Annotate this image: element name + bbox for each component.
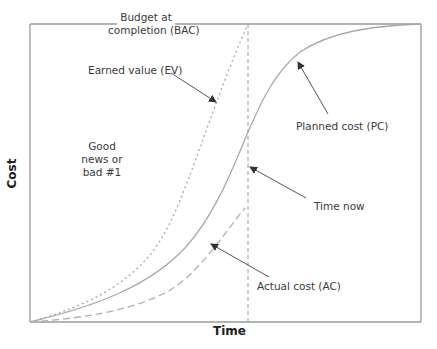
ac-label: Actual cost (AC) [257, 280, 341, 293]
pc-label: Planned cost (PC) [296, 120, 388, 133]
y-axis-label: Cost [6, 159, 19, 189]
pc-arrow-icon [298, 62, 328, 114]
time-now-arrow-icon [250, 167, 306, 198]
good-news-label: Good news or bad #1 [80, 140, 124, 179]
time-now-label: Time now [314, 200, 365, 213]
good-news-line2: news or [80, 153, 124, 166]
good-news-line3: bad #1 [80, 166, 124, 179]
bac-label-line2: completion (BAC) [108, 24, 184, 37]
bac-label: Budget at completion (BAC) [108, 11, 184, 37]
ev-arrow-icon [171, 73, 216, 102]
good-news-line1: Good [80, 140, 124, 153]
x-axis-label: Time [213, 325, 246, 338]
bac-label-line1: Budget at [108, 11, 184, 24]
ac-arrow-icon [211, 244, 269, 277]
ev-label: Earned value (EV) [88, 64, 182, 77]
annotation-arrows [171, 62, 328, 277]
actual-cost-curve [30, 208, 245, 322]
evm-diagram [0, 0, 437, 349]
